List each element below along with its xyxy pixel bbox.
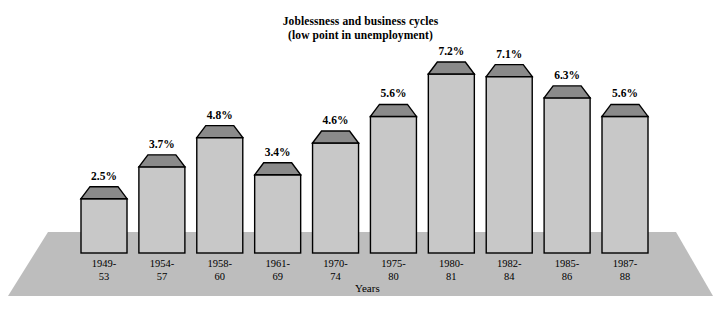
bar-top-face[interactable] [602,104,648,116]
x-tick-label-line: 1961- [265,257,290,270]
x-tick-label-line: 1975- [381,257,406,270]
x-tick-label: 1954-57 [150,257,175,283]
bar-value-label: 7.2% [438,45,464,57]
bar-top-face[interactable] [370,104,416,116]
x-tick-label: 1949-53 [92,257,117,283]
x-tick-label-line: 1954- [150,257,175,270]
bar-value-label: 5.6% [381,87,407,99]
x-tick-label-line: 57 [150,270,175,283]
chart-root: Joblessness and business cycles (low poi… [0,0,721,311]
x-tick-label-line: 1980- [439,257,464,270]
bar-body[interactable] [81,199,127,253]
bar-value-label: 7.1% [496,48,522,60]
x-tick-label: 1970-74 [323,257,348,283]
x-tick-label-line: 84 [497,270,522,283]
bar-top-face[interactable] [544,86,590,98]
bar-body[interactable] [197,138,243,253]
x-tick-label-line: 1987- [613,257,638,270]
x-tick-label-line: 1949- [92,257,117,270]
x-tick-label-line: 1970- [323,257,348,270]
x-tick-label: 1958-60 [208,257,233,283]
x-tick-label-line: 1982- [497,257,522,270]
x-tick-label-line: 88 [613,270,638,283]
bar-body[interactable] [428,74,474,253]
bar-body[interactable] [255,175,301,253]
bar-series [81,62,648,253]
x-tick-label: 1961-69 [265,257,290,283]
x-tick-label-line: 1958- [208,257,233,270]
x-tick-label-line: 60 [208,270,233,283]
x-tick-label: 1980-81 [439,257,464,283]
bar-value-label: 3.4% [265,146,291,158]
x-axis-title: Years [355,282,380,294]
bar-top-face[interactable] [428,62,474,74]
x-tick-label-line: 80 [381,270,406,283]
bar-body[interactable] [602,116,648,253]
x-tick-label-line: 1985- [555,257,580,270]
x-tick-label-line: 69 [265,270,290,283]
bar-value-label: 4.8% [207,109,233,121]
x-tick-label: 1985-86 [555,257,580,283]
bar-value-label: 5.6% [612,87,638,99]
bar-value-label: 4.6% [323,114,349,126]
x-tick-label: 1975-80 [381,257,406,283]
x-tick-label: 1987-88 [613,257,638,283]
x-tick-label-line: 81 [439,270,464,283]
bar-top-face[interactable] [486,65,532,77]
bar-top-face[interactable] [139,155,185,167]
bar-value-label: 3.7% [149,138,175,150]
x-tick-label: 1982-84 [497,257,522,283]
bar-top-face[interactable] [197,126,243,138]
bar-value-label: 2.5% [91,170,117,182]
bar-top-face[interactable] [313,131,359,143]
x-tick-label-line: 74 [323,270,348,283]
bar-top-face[interactable] [81,187,127,199]
bar-body[interactable] [370,116,416,253]
bar-value-label: 6.3% [554,69,580,81]
bar-body[interactable] [486,77,532,253]
bar-body[interactable] [139,167,185,253]
bar-body[interactable] [544,98,590,253]
x-tick-label-line: 53 [92,270,117,283]
x-tick-label-line: 86 [555,270,580,283]
bar-top-face[interactable] [255,163,301,175]
bar-body[interactable] [313,143,359,253]
